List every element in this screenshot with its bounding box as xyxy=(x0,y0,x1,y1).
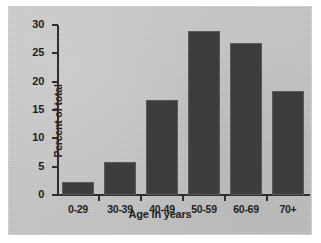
x-tick xyxy=(182,195,184,201)
bar xyxy=(188,31,220,195)
y-tick-label: 15 xyxy=(32,103,44,115)
y-tick-label: 30 xyxy=(32,18,44,30)
bar xyxy=(230,43,262,195)
y-tick-label: 10 xyxy=(32,131,44,143)
x-tick xyxy=(140,195,142,201)
x-category-label: 60-69 xyxy=(233,203,258,215)
x-category-label: 40-49 xyxy=(149,203,174,215)
y-tick: 25 xyxy=(52,52,58,54)
y-tick-label: 0 xyxy=(38,188,44,200)
bar-chart-figure: Percent of total Age in years 0510152025… xyxy=(0,0,321,243)
bar xyxy=(146,100,178,195)
y-tick-label: 5 xyxy=(38,160,44,172)
y-tick: 15 xyxy=(52,109,58,111)
y-tick-label: 25 xyxy=(32,46,44,58)
plot-area: 051015202530 0-2930-3940-4950-5960-6970+ xyxy=(57,25,309,195)
y-tick: 5 xyxy=(52,166,58,168)
y-tick: 10 xyxy=(52,137,58,139)
x-category-label: 50-59 xyxy=(191,203,216,215)
chart-panel: Percent of total Age in years 0510152025… xyxy=(9,7,311,234)
x-category-label: 70+ xyxy=(280,203,297,215)
y-tick: 0 xyxy=(52,194,58,196)
x-tick xyxy=(224,195,226,201)
x-tick xyxy=(98,195,100,201)
bar xyxy=(104,162,136,195)
x-category-label: 0-29 xyxy=(68,203,88,215)
y-tick: 20 xyxy=(52,81,58,83)
x-category-label: 30-39 xyxy=(107,203,132,215)
bar xyxy=(62,182,94,195)
y-tick-label: 20 xyxy=(32,75,44,87)
x-tick xyxy=(266,195,268,201)
bar xyxy=(272,91,304,195)
y-tick: 30 xyxy=(52,24,58,26)
